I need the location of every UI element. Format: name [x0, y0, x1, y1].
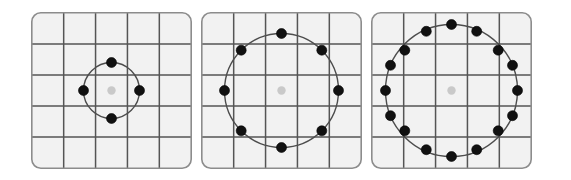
figure-root — [0, 0, 571, 180]
panel-1-canvas — [31, 12, 192, 169]
data-point-marker — [508, 111, 518, 121]
panel-3-canvas — [371, 12, 532, 169]
panel-2-canvas — [201, 12, 362, 169]
panel-1 — [31, 12, 192, 169]
data-point-marker — [381, 86, 391, 96]
data-point-marker — [472, 26, 482, 36]
data-point-marker — [277, 29, 287, 39]
data-point-marker — [421, 26, 431, 36]
data-point-marker — [493, 126, 503, 136]
data-point-marker — [79, 86, 89, 96]
data-point-marker — [135, 86, 145, 96]
data-point-marker — [107, 114, 117, 124]
data-point-marker — [513, 86, 523, 96]
data-point-marker — [334, 86, 344, 96]
data-point-marker — [317, 45, 327, 55]
center-point-marker — [447, 86, 455, 94]
data-point-marker — [236, 45, 246, 55]
data-point-marker — [400, 45, 410, 55]
data-point-marker — [236, 126, 246, 136]
panel-3 — [371, 12, 532, 169]
data-point-marker — [386, 60, 396, 70]
center-point-marker — [107, 86, 115, 94]
data-point-marker — [447, 20, 457, 30]
data-point-marker — [508, 60, 518, 70]
data-point-marker — [493, 45, 503, 55]
data-point-marker — [447, 152, 457, 162]
data-point-marker — [421, 145, 431, 155]
data-point-marker — [107, 58, 117, 68]
data-point-marker — [317, 126, 327, 136]
panel-2 — [201, 12, 362, 169]
center-point-marker — [277, 86, 285, 94]
data-point-marker — [386, 111, 396, 121]
data-point-marker — [472, 145, 482, 155]
data-point-marker — [400, 126, 410, 136]
data-point-marker — [220, 86, 230, 96]
data-point-marker — [277, 143, 287, 153]
